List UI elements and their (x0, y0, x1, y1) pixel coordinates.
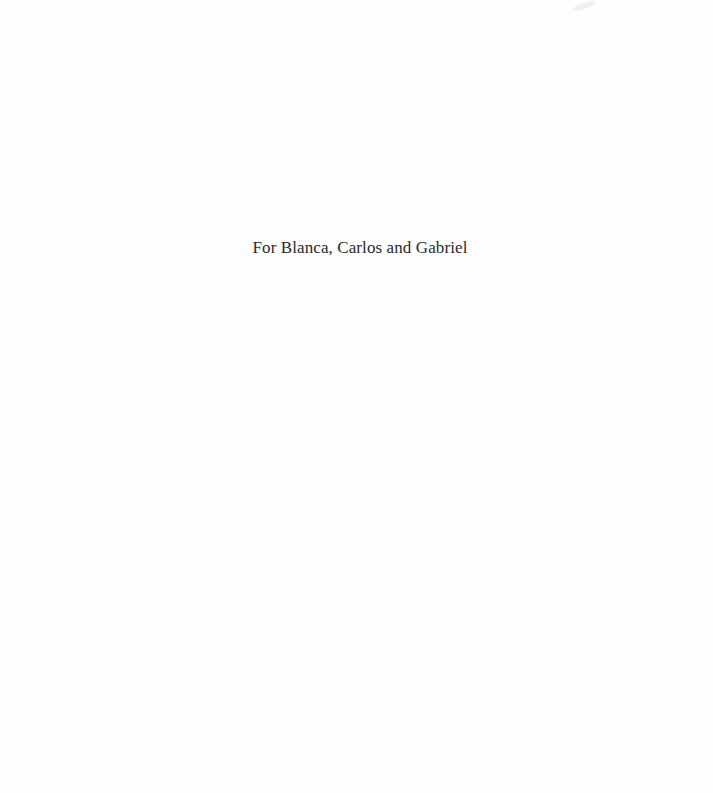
dedication-text: For Blanca, Carlos and Gabriel (0, 236, 713, 260)
scan-artifact (572, 0, 597, 13)
book-page: For Blanca, Carlos and Gabriel (0, 0, 713, 793)
